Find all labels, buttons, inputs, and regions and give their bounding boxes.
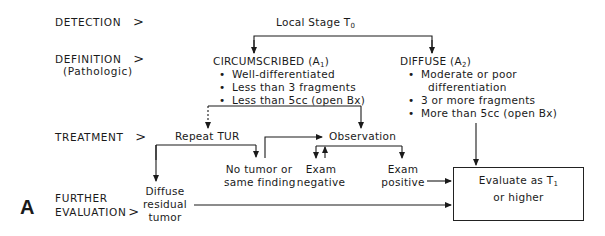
- node-local-stage: Local Stage T0: [276, 16, 355, 33]
- diffuse-bullet-cont: differentiation: [428, 81, 507, 94]
- node-evaluate-text: Evaluate as T1 or higher: [453, 174, 584, 204]
- circumscribed-bullet: Less than 3 fragments: [232, 81, 356, 94]
- row-label-treatment: TREATMENT >: [55, 130, 147, 144]
- node-repeat-tur: Repeat TUR: [175, 130, 240, 143]
- row-sublabel-pathologic: (Pathologic): [63, 65, 133, 78]
- circumscribed-bullet: Less than 5cc (open Bx): [232, 94, 365, 107]
- row-label-detection: DETECTION >: [55, 15, 144, 29]
- node-diffuse-residual: Diffuseresidualtumor: [140, 185, 190, 224]
- row-arrow-icon: >: [128, 204, 140, 219]
- row-arrow-icon: >: [133, 51, 145, 66]
- circumscribed-bullet: Well-differentiated: [232, 68, 335, 81]
- node-observation: Observation: [329, 130, 396, 143]
- diffuse-bullet: More than 5cc (open Bx): [421, 107, 557, 120]
- row-arrow-icon: >: [133, 14, 145, 29]
- node-exam-positive: Exampositive: [380, 163, 426, 189]
- row-arrow-icon: >: [135, 129, 147, 144]
- row-label-evaluation: EVALUATION>: [55, 205, 140, 219]
- node-no-tumor: No tumor orsame finding: [224, 163, 294, 189]
- diffuse-bullet: 3 or more fragments: [421, 94, 535, 107]
- row-label-definition: DEFINITION >: [55, 52, 145, 66]
- node-exam-negative: Examnegative: [296, 163, 346, 189]
- row-label-further: FURTHER: [55, 192, 108, 205]
- diffuse-bullet: Moderate or poor: [421, 68, 517, 81]
- panel-label: A: [20, 196, 34, 219]
